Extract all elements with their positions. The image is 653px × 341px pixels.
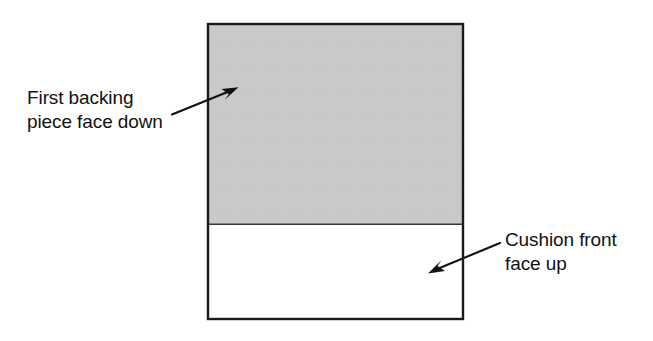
diagram-graphics [0,0,653,341]
cushion-front-label: Cushion front face up [505,228,617,275]
cushion-front-label-line-1: Cushion front [505,228,617,252]
backing-piece-region [208,24,463,224]
backing-piece-label-line-1: First backing [27,86,163,110]
cushion-front-label-line-2: face up [505,252,617,276]
backing-piece-label-line-2: piece face down [27,110,163,134]
cushion-front-region [208,224,463,319]
backing-piece-label: First backing piece face down [27,86,163,133]
diagram-canvas: First backing piece face down Cushion fr… [0,0,653,341]
